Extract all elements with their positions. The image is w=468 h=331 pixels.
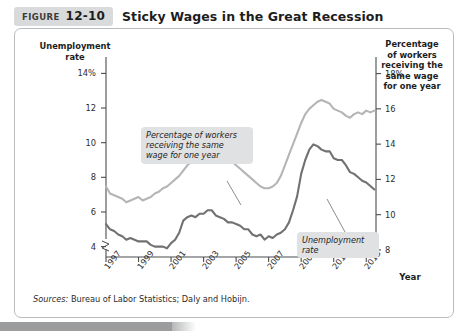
callout-unemployment-series: Unemployment rate xyxy=(297,232,379,258)
y-tick-label-left: 14% xyxy=(62,68,96,78)
page-footer-bar-fade xyxy=(172,322,196,331)
y-tick-label-right: 16 xyxy=(385,104,415,114)
figure-title: Sticky Wages in the Great Recession xyxy=(122,9,384,24)
x-axis-title: Year xyxy=(387,272,433,283)
y-axis-right-title: Percentage of workers receiving the same… xyxy=(373,39,451,92)
figure-header: FIGURE 12-10 Sticky Wages in the Great R… xyxy=(14,7,384,26)
source-text: Bureau of Labor Statistics; Daly and Hob… xyxy=(68,294,249,304)
y-tick-label-left: 12 xyxy=(62,103,96,113)
y-tick-label-right: 12 xyxy=(385,174,415,184)
y-tick-label-left: 8 xyxy=(62,172,96,182)
leader-line-unemployment xyxy=(327,199,345,232)
figure-number-badge: FIGURE 12-10 xyxy=(14,7,113,26)
y-tick-label-right: 14 xyxy=(385,139,415,149)
y-tick-label-right: 18% xyxy=(385,69,415,79)
leader-line-wage xyxy=(227,181,241,205)
figure-number: 12-10 xyxy=(66,9,105,24)
y-tick-label-left: 4 xyxy=(62,242,96,252)
figure-label: FIGURE xyxy=(22,10,60,25)
callout-wage-series: Percentage of workers receiving the same… xyxy=(141,127,253,164)
y-axis-left-title: Unemployment rate xyxy=(27,41,123,62)
callout-leader-lines xyxy=(227,181,345,232)
axis-break-mark xyxy=(102,241,109,251)
source-note: Sources: Bureau of Labor Statistics; Dal… xyxy=(33,294,250,304)
y-tick-label-left: 6 xyxy=(62,207,96,217)
figure-root: FIGURE 12-10 Sticky Wages in the Great R… xyxy=(0,0,468,331)
y-tick-label-left: 10 xyxy=(62,138,96,148)
chart-panel: Unemployment rate Percentage of workers … xyxy=(14,28,454,318)
y-tick-label-right: 8 xyxy=(385,245,415,255)
page-footer-bar xyxy=(0,322,172,331)
y-tick-label-right: 10 xyxy=(385,210,415,220)
series-group xyxy=(106,100,374,248)
source-label: Sources: xyxy=(33,294,68,304)
